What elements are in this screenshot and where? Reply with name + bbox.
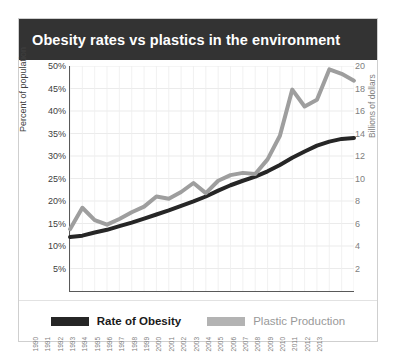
chart-title-bar: Obesity rates vs plastics in the environ… [19,19,377,60]
y-tick-right: 16 [355,106,365,116]
y-tick-left: 20% [48,196,66,206]
y-tick-left: 35% [48,129,66,139]
data-series [70,66,354,291]
y-tick-right: 18 [355,84,365,94]
legend-item-plastic: Plastic Production [207,315,345,327]
legend-swatch-obesity [51,317,89,326]
y-tick-right: 14 [355,129,365,139]
legend-label-obesity: Rate of Obesity [97,315,181,327]
y-tick-right: 4 [355,241,360,251]
legend-label-plastic: Plastic Production [253,315,345,327]
y-tick-left: 15% [48,219,66,229]
y-tick-right: 20 [355,61,365,71]
y-tick-left: 45% [48,84,66,94]
plot-area [69,66,354,292]
legend-swatch-plastic [207,317,245,326]
chart-title: Obesity rates vs plastics in the environ… [19,32,340,48]
y-tick-left: 30% [48,151,66,161]
y-tick-left: 40% [48,106,66,116]
y-tick-left: 10% [48,241,66,251]
chart-legend: Rate of Obesity Plastic Production [19,300,377,341]
y-tick-right: 2 [355,264,360,274]
y-tick-right: 12 [355,151,365,161]
legend-item-obesity: Rate of Obesity [51,315,181,327]
y-tick-left: 5% [53,264,66,274]
y-tick-left: 50% [48,61,66,71]
y-tick-left: 25% [48,174,66,184]
chart-card: Obesity rates vs plastics in the environ… [18,18,378,342]
y-tick-right: 8 [355,196,360,206]
y-tick-right: 10 [355,174,365,184]
y-tick-right: 6 [355,219,360,229]
